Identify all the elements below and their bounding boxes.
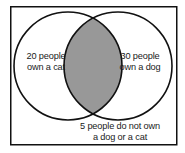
set-label-dog-owners-line2: own a dog [107,62,173,73]
set-label-dog-owners: 30 people own a dog [107,51,173,72]
set-label-dog-owners-line1: 30 people [107,51,173,62]
outside-region-label-line1: 5 people do not own [62,121,178,132]
set-label-cat-owners: 20 people own a cat [14,51,78,72]
set-label-cat-owners-line1: 20 people [14,51,78,62]
outside-region-label: 5 people do not own a dog or a cat [62,121,178,142]
outside-region-label-line2: a dog or a cat [62,132,178,143]
set-label-cat-owners-line2: own a cat [14,62,78,73]
venn-diagram-figure: 20 people own a cat 30 people own a dog … [0,0,185,153]
